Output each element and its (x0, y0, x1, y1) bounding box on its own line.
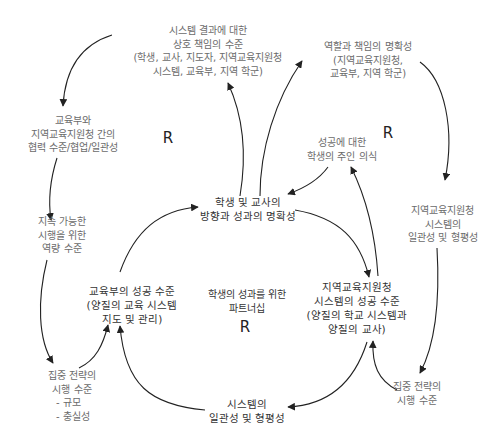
node-text: (지역교육지원청, (324, 54, 411, 68)
edge-system-to-ministry (120, 326, 205, 410)
loop-label-right: R (383, 124, 393, 142)
node-text: 학생의 주인 의식 (307, 150, 376, 164)
node-text: 일관성 및 형평성 (209, 411, 286, 425)
center-title: 학생의 성과를 위한 파트너십 (208, 288, 286, 316)
node-text: 시스템의 (209, 397, 286, 411)
node-student-ownership: 성공에 대한 학생의 주인 의식 (307, 136, 376, 163)
edge-direction-to-accountability (228, 83, 243, 196)
edge-role-to-regional-consistency (420, 62, 449, 180)
node-text: - 충실성 (48, 410, 96, 424)
loop-label-left: R (163, 129, 173, 147)
loop-label-center: R (240, 318, 250, 336)
causal-loop-diagram: 시스템 결과에 대한 상호 책임의 수준 (학생, 교사, 지도자, 지역교육지… (0, 0, 492, 443)
center-title-line: 파트너십 (208, 302, 286, 316)
edge-capacity-to-strategy-left (40, 260, 53, 363)
center-title-line: 학생의 성과를 위한 (208, 288, 286, 302)
node-direction-clarity: 학생 및 교사의 방향과 성과의 명확성 (200, 195, 297, 223)
node-regional-consistency: 지역교육지원청 시스템의 일관성 및 형평성 (408, 204, 477, 245)
node-role-clarity: 역할과 책임의 명확성 (지역교육지원청, 교육부, 지역 학군) (324, 40, 411, 81)
node-text: 집중 전략의 (393, 380, 441, 394)
node-text: 집중 전략의 (48, 369, 96, 383)
node-text: (학생, 교사, 지도자, 지역교육지원청 (134, 51, 283, 65)
node-collaboration: 교육부와 지역교육지원청 간의 협력 수준/협업/일관성 (28, 114, 119, 155)
node-text: 방향과 성과의 명확성 (200, 209, 297, 223)
node-text: 지역교육지원청 간의 (28, 128, 119, 142)
edge-ownership-to-direction (288, 167, 328, 194)
node-regional-success: 지역교육지원청 시스템의 성공 수준 (양질의 학교 시스템과 양질의 교사) (307, 280, 408, 336)
node-text: 시스템의 성공 수준 (307, 294, 408, 308)
node-focused-strategy-left: 집중 전략의 시행 수준 - 규모 - 충실성 (48, 369, 96, 423)
node-mutual-accountability: 시스템 결과에 대한 상호 책임의 수준 (학생, 교사, 지도자, 지역교육지… (134, 24, 283, 78)
node-text: (양질의 학교 시스템과 (307, 308, 408, 322)
node-text: 시행 수준 (393, 394, 441, 408)
node-text: 시스템의 (408, 218, 477, 232)
node-ministry-success: 교육부의 성공 수준 (양질의 교육 시스템 지도 및 관리) (87, 284, 178, 326)
edge-accountability-to-collaboration (63, 35, 112, 106)
edge-ministry-to-direction (120, 207, 198, 272)
edge-regional-to-ownership (351, 167, 378, 276)
node-text: 학생 및 교사의 (200, 195, 297, 209)
node-text: 교육부, 지역 학군) (324, 67, 411, 81)
node-text: 교육부의 성공 수준 (87, 284, 178, 298)
node-text: 역할과 책임의 명확성 (324, 40, 411, 54)
node-text: 시행 수준 (48, 383, 96, 397)
edge-strategy-left-to-ministry (79, 325, 108, 368)
node-text: 일관성 및 형평성 (408, 231, 477, 245)
node-text: 상호 책임의 수준 (134, 38, 283, 52)
node-text: 지도 및 관리) (87, 312, 178, 326)
node-text: 시스템, 교육부, 지역 학군) (134, 65, 283, 79)
node-text: 지속 가능한 (38, 215, 86, 229)
node-focused-strategy-right: 집중 전략의 시행 수준 (393, 380, 441, 407)
node-text: (양질의 교육 시스템 (87, 298, 178, 312)
node-text: 교육부와 (28, 114, 119, 128)
edge-direction-to-role (260, 61, 302, 196)
edge-collaboration-to-capacity (50, 158, 57, 220)
node-text: 양질의 교사) (307, 322, 408, 336)
node-text: 협력 수준/협업/일관성 (28, 141, 119, 155)
node-sustainable-capacity: 지속 가능한 시행을 위한 역량 수준 (38, 215, 86, 256)
node-text: 성공에 대한 (307, 136, 376, 150)
node-text: 역량 수준 (38, 242, 86, 256)
node-system-consistency: 시스템의 일관성 및 형평성 (209, 397, 286, 425)
node-text: - 규모 (48, 396, 96, 410)
edge-regional-consistency-to-strategy-right (420, 248, 438, 373)
node-text: 지역교육지원청 (307, 280, 408, 294)
edge-regional-to-system (288, 342, 367, 407)
node-text: 시스템 결과에 대한 (134, 24, 283, 38)
node-text: 지역교육지원청 (408, 204, 477, 218)
edge-direction-to-regional (295, 210, 369, 277)
node-text: 시행을 위한 (38, 229, 86, 243)
